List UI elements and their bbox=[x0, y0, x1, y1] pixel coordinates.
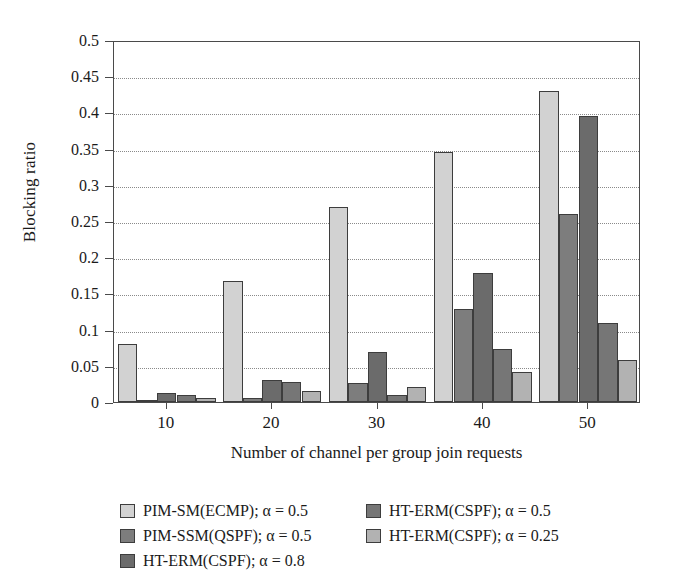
legend-swatch-icon bbox=[366, 504, 381, 518]
bar bbox=[223, 281, 243, 402]
legend-item: PIM-SM(ECMP); α = 0.5 bbox=[120, 502, 366, 520]
bar-chart-figure: Blocking ratio 00.050.10.150.20.250.30.3… bbox=[0, 0, 688, 585]
gridline bbox=[114, 114, 639, 116]
y-tick-label: 0.3 bbox=[79, 177, 99, 195]
bar bbox=[454, 309, 474, 402]
legend-label: PIM-SSM(QSPF); α = 0.5 bbox=[143, 527, 312, 545]
bar bbox=[473, 273, 493, 402]
legend-swatch-icon bbox=[366, 529, 381, 543]
bar bbox=[196, 398, 216, 402]
bar bbox=[493, 349, 513, 402]
x-tick-mark bbox=[377, 403, 378, 409]
legend-item: PIM-SSM(QSPF); α = 0.5 bbox=[120, 527, 366, 545]
legend-swatch-icon bbox=[120, 529, 135, 543]
bar bbox=[579, 116, 599, 402]
legend-label: HT-ERM(CSPF); α = 0.8 bbox=[143, 552, 305, 570]
x-tick-label: 20 bbox=[263, 413, 280, 433]
y-tick-mark bbox=[105, 222, 113, 223]
y-tick-label: 0.2 bbox=[79, 249, 99, 267]
bar bbox=[407, 387, 427, 402]
x-axis-ticks: 1020304050 bbox=[113, 403, 640, 443]
x-tick-mark bbox=[166, 403, 167, 409]
bar bbox=[157, 393, 177, 402]
bar bbox=[302, 391, 322, 402]
legend-swatch-icon bbox=[120, 504, 135, 518]
legend-item: HT-ERM(CSPF); α = 0.25 bbox=[366, 527, 590, 545]
bar bbox=[387, 395, 407, 402]
legend-label: HT-ERM(CSPF); α = 0.25 bbox=[389, 527, 559, 545]
x-tick-label: 40 bbox=[473, 413, 490, 433]
bar bbox=[348, 383, 368, 402]
y-axis-ticks: 00.050.10.150.20.250.30.350.40.450.5 bbox=[0, 41, 113, 403]
bar bbox=[329, 207, 349, 402]
gridline bbox=[114, 151, 639, 153]
legend-item: HT-ERM(CSPF); α = 0.5 bbox=[366, 502, 590, 520]
y-tick-label: 0.25 bbox=[71, 213, 99, 231]
y-tick-label: 0.05 bbox=[71, 358, 99, 376]
y-tick-label: 0.5 bbox=[79, 32, 99, 50]
x-tick-label: 10 bbox=[157, 413, 174, 433]
legend-item: HT-ERM(CSPF); α = 0.8 bbox=[120, 552, 366, 570]
x-tick-label: 30 bbox=[368, 413, 385, 433]
legend-label: HT-ERM(CSPF); α = 0.5 bbox=[389, 502, 551, 520]
x-tick-mark bbox=[482, 403, 483, 409]
y-tick-mark bbox=[105, 113, 113, 114]
bar bbox=[282, 382, 302, 402]
y-tick-mark bbox=[105, 403, 113, 404]
bar bbox=[434, 152, 454, 402]
legend-label: PIM-SM(ECMP); α = 0.5 bbox=[143, 502, 308, 520]
x-tick-mark bbox=[271, 403, 272, 409]
y-tick-mark bbox=[105, 41, 113, 42]
y-tick-label: 0.35 bbox=[71, 141, 99, 159]
y-tick-mark bbox=[105, 150, 113, 151]
bar bbox=[598, 323, 618, 402]
y-tick-mark bbox=[105, 331, 113, 332]
y-tick-mark bbox=[105, 294, 113, 295]
bar bbox=[243, 398, 263, 402]
legend-swatch-icon bbox=[120, 554, 135, 568]
y-tick-label: 0.1 bbox=[79, 322, 99, 340]
y-tick-label: 0.4 bbox=[79, 104, 99, 122]
gridline bbox=[114, 187, 639, 189]
y-tick-label: 0.15 bbox=[71, 285, 99, 303]
bar bbox=[512, 372, 532, 402]
chart-legend: PIM-SM(ECMP); α = 0.5HT-ERM(CSPF); α = 0… bbox=[120, 498, 590, 573]
y-tick-mark bbox=[105, 77, 113, 78]
x-tick-mark bbox=[587, 403, 588, 409]
x-axis-title: Number of channel per group join request… bbox=[113, 443, 640, 463]
bar bbox=[368, 352, 388, 402]
y-tick-label: 0 bbox=[91, 394, 99, 412]
y-tick-mark bbox=[105, 367, 113, 368]
gridline bbox=[114, 78, 639, 80]
bar bbox=[618, 360, 638, 402]
bar bbox=[262, 380, 282, 402]
plot-area bbox=[113, 41, 640, 403]
bar bbox=[118, 344, 138, 402]
bar bbox=[539, 91, 559, 402]
x-tick-label: 50 bbox=[579, 413, 596, 433]
y-tick-mark bbox=[105, 258, 113, 259]
bar bbox=[177, 395, 197, 402]
bar bbox=[137, 400, 157, 402]
bar bbox=[559, 214, 579, 402]
y-tick-label: 0.45 bbox=[71, 68, 99, 86]
y-tick-mark bbox=[105, 186, 113, 187]
